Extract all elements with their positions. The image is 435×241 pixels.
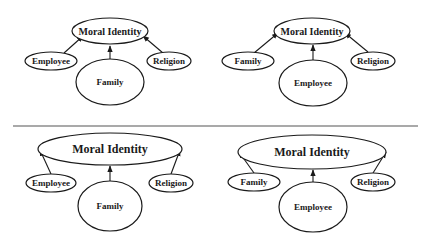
node-target-label: Moral Identity <box>78 26 141 37</box>
node-right: Religion <box>147 52 191 70</box>
node-center-label: Family <box>97 77 124 87</box>
node-left-label: Employee <box>32 56 70 66</box>
node-target: Moral Identity <box>274 18 350 44</box>
node-right-label: Religion <box>357 177 389 187</box>
panel-top-left: Moral Identity Employee Family Religion <box>25 18 191 105</box>
node-center: Employee <box>279 182 347 232</box>
node-left: Family <box>222 52 274 70</box>
node-left-label: Family <box>235 56 262 66</box>
node-center: Family <box>76 59 144 105</box>
node-target-label: Moral Identity <box>72 142 148 156</box>
node-right-label: Religion <box>153 56 185 66</box>
panel-top-right: Moral Identity Family Employee Religion <box>222 18 395 106</box>
node-target-label: Moral Identity <box>274 145 350 159</box>
node-center-label: Family <box>97 201 124 211</box>
edge-left-to-target <box>254 33 278 53</box>
node-center-label: Employee <box>294 78 332 88</box>
node-left-label: Family <box>241 177 268 187</box>
node-left-label: Employee <box>32 178 70 188</box>
node-left: Family <box>228 173 280 191</box>
node-target-label: Moral Identity <box>280 26 343 37</box>
node-center: Family <box>78 181 142 231</box>
node-right: Religion <box>351 52 395 70</box>
node-right: Religion <box>149 174 193 192</box>
node-left: Employee <box>25 52 77 70</box>
edge-right-to-target <box>143 36 163 53</box>
node-right: Religion <box>351 173 395 191</box>
node-target: Moral Identity <box>72 18 148 44</box>
panel-bottom-left: Moral Identity Employee Family Religion <box>26 133 193 231</box>
node-left: Employee <box>26 174 76 192</box>
node-target: Moral Identity <box>238 135 386 169</box>
diagram-canvas: Moral Identity Employee Family Religion … <box>0 0 435 241</box>
node-center: Employee <box>279 60 347 106</box>
panel-bottom-right: Moral Identity Family Employee Religion <box>228 135 395 232</box>
node-right-label: Religion <box>155 178 187 188</box>
edge-right-to-target <box>345 33 368 52</box>
node-right-label: Religion <box>357 56 389 66</box>
node-target: Moral Identity <box>38 133 182 165</box>
node-center-label: Employee <box>294 202 332 212</box>
